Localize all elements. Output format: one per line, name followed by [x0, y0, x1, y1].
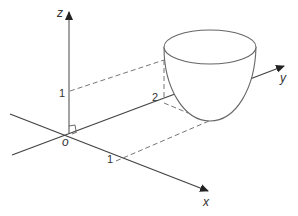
paraboloid-surface	[164, 30, 256, 121]
z-tick-label: 1	[59, 87, 65, 99]
x-tick-label: 1	[107, 153, 113, 165]
z-axis-label: z	[56, 6, 63, 20]
origin-label: o	[62, 135, 69, 149]
right-angle-mark	[69, 125, 76, 131]
diagram-canvas: z 1 o 1 2 y x	[0, 0, 298, 216]
y-axis-label: y	[279, 71, 287, 85]
y-tick-label: 2	[152, 91, 158, 103]
x-axis-label: x	[202, 195, 210, 209]
